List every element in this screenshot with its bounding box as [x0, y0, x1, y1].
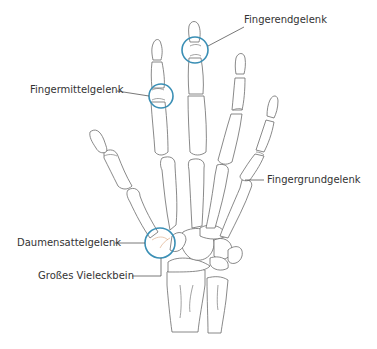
grosses-vieleckbein-leader-line: [132, 258, 161, 276]
daumensattelgelenk-highlight-ring: [145, 228, 175, 258]
middle-finger-phalanges: [188, 22, 206, 156]
metacarpal-bones: [127, 157, 252, 238]
label-daumensattelgelenk: Daumensattelgelenk: [17, 237, 121, 248]
thumb-phalanges: [90, 130, 132, 189]
forearm-bones: [167, 268, 228, 333]
saddle-joint-detail: [152, 237, 170, 248]
label-fingermittelgelenk: Fingermittelgelenk: [30, 84, 123, 95]
fingerendgelenk-leader-line: [208, 27, 244, 46]
little-finger-phalanges: [240, 96, 278, 181]
label-grosses-vieleckbein: Großes Vieleckbein: [38, 270, 134, 281]
label-fingerendgelenk: Fingerendgelenk: [244, 14, 327, 25]
ring-finger-phalanges: [218, 54, 245, 165]
label-fingergrundgelenk: Fingergrundgelenk: [267, 174, 361, 185]
index-finger-phalanges: [151, 40, 168, 156]
